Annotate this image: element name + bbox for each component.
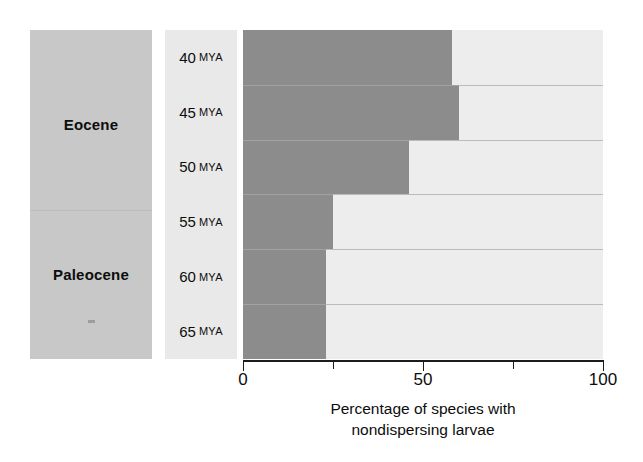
mya-unit: MYA bbox=[199, 161, 223, 173]
x-axis-tick-label: 0 bbox=[238, 370, 247, 390]
bar-65-mya bbox=[243, 304, 326, 359]
bar-row bbox=[243, 140, 603, 195]
x-axis-caption-line2: nondispersing larvae bbox=[243, 419, 603, 440]
x-axis-tick-label: 100 bbox=[589, 370, 617, 390]
chart-figure: Eocene Paleocene 40 MYA 45 MYA 50 MYA 55… bbox=[0, 0, 643, 462]
bar-45-mya bbox=[243, 85, 459, 140]
epoch-panel-speck bbox=[88, 320, 95, 323]
gridline bbox=[243, 194, 603, 195]
mya-row: 60 MYA bbox=[165, 249, 237, 304]
gridline bbox=[243, 304, 603, 305]
mya-row: 65 MYA bbox=[165, 304, 237, 359]
mya-unit: MYA bbox=[199, 271, 223, 283]
mya-row: 50 MYA bbox=[165, 140, 237, 195]
x-axis-caption: Percentage of species with nondispersing… bbox=[243, 398, 603, 440]
x-axis-tick-label: 50 bbox=[414, 370, 433, 390]
epoch-label-eocene: Eocene bbox=[30, 116, 152, 133]
epoch-label-paleocene: Paleocene bbox=[30, 266, 152, 283]
bar-row bbox=[243, 85, 603, 140]
epoch-panel: Eocene Paleocene bbox=[30, 30, 152, 359]
mya-value: 50 bbox=[179, 158, 196, 175]
bar-row bbox=[243, 194, 603, 249]
mya-value: 60 bbox=[179, 268, 196, 285]
mya-row: 45 MYA bbox=[165, 85, 237, 140]
bar-50-mya bbox=[243, 140, 409, 195]
gridline bbox=[243, 249, 603, 250]
mya-label-panel: 40 MYA 45 MYA 50 MYA 55 MYA 60 MYA 65 MY… bbox=[165, 30, 237, 359]
x-axis-caption-line1: Percentage of species with bbox=[243, 398, 603, 419]
mya-value: 40 bbox=[179, 49, 196, 66]
epoch-divider bbox=[30, 210, 152, 211]
mya-value: 45 bbox=[179, 104, 196, 121]
mya-unit: MYA bbox=[199, 51, 223, 63]
gridline bbox=[243, 140, 603, 141]
x-axis-tick bbox=[333, 362, 334, 369]
mya-unit: MYA bbox=[199, 325, 223, 337]
mya-unit: MYA bbox=[199, 106, 223, 118]
mya-row: 55 MYA bbox=[165, 194, 237, 249]
bar-row bbox=[243, 30, 603, 85]
bar-55-mya bbox=[243, 194, 333, 249]
bar-40-mya bbox=[243, 30, 452, 85]
mya-row: 40 MYA bbox=[165, 30, 237, 85]
bar-row bbox=[243, 249, 603, 304]
x-axis-tick bbox=[513, 362, 514, 369]
bar-60-mya bbox=[243, 249, 326, 304]
plot-area bbox=[243, 30, 603, 359]
gridline bbox=[243, 85, 603, 86]
bar-row bbox=[243, 304, 603, 359]
mya-value: 55 bbox=[179, 213, 196, 230]
mya-value: 65 bbox=[179, 323, 196, 340]
mya-unit: MYA bbox=[199, 216, 223, 228]
